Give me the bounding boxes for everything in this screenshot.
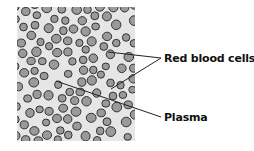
red-blood-cell <box>15 83 23 91</box>
red-blood-cell <box>90 66 97 74</box>
red-blood-cell <box>69 25 78 33</box>
red-blood-cell <box>30 127 39 136</box>
red-blood-cell <box>76 39 83 46</box>
red-blood-cell <box>65 131 73 139</box>
red-blood-cell <box>81 27 90 36</box>
red-blood-cell <box>81 131 90 141</box>
red-blood-cell <box>60 27 68 35</box>
red-blood-cell <box>129 86 136 93</box>
red-blood-cell <box>69 58 76 65</box>
red-blood-cell <box>63 37 71 45</box>
red-blood-cell <box>57 127 65 134</box>
red-blood-cell <box>19 49 27 58</box>
red-blood-cell <box>86 113 96 122</box>
red-blood-cell <box>95 2 104 11</box>
red-blood-cell <box>64 70 72 77</box>
red-blood-cell <box>29 78 39 87</box>
red-blood-cell <box>13 103 21 111</box>
red-blood-cell <box>97 109 105 117</box>
red-blood-cell <box>113 39 121 46</box>
red-blood-cell <box>24 95 32 102</box>
red-blood-cell <box>49 60 59 69</box>
red-blood-cell <box>44 24 53 33</box>
red-blood-cell <box>20 69 29 77</box>
label-plasma: Plasma <box>164 111 208 124</box>
red-blood-cell <box>20 23 28 31</box>
red-blood-cell <box>130 40 138 47</box>
red-blood-cell <box>129 75 138 83</box>
red-blood-cell <box>87 37 96 46</box>
blood-diagram <box>0 0 254 151</box>
red-blood-cell <box>27 31 36 39</box>
red-blood-cell <box>34 137 42 145</box>
red-blood-cell <box>53 48 62 56</box>
red-blood-cell <box>58 5 66 13</box>
red-blood-cell <box>87 76 96 85</box>
red-blood-cell <box>62 17 69 25</box>
red-blood-cell <box>122 34 129 42</box>
red-blood-cell <box>38 58 46 65</box>
red-blood-cell <box>63 115 71 124</box>
red-blood-cell <box>82 97 91 106</box>
red-blood-cell <box>92 23 100 30</box>
red-blood-cell <box>33 90 41 98</box>
red-blood-cell <box>51 15 58 22</box>
red-blood-cell <box>27 57 35 64</box>
red-blood-cell <box>31 2 39 9</box>
red-blood-cell <box>45 107 53 115</box>
red-blood-cell <box>106 127 116 137</box>
red-blood-cell <box>36 106 43 113</box>
red-blood-cell <box>78 17 86 25</box>
red-blood-cell <box>120 3 129 12</box>
red-blood-cell <box>20 121 28 129</box>
red-blood-cell <box>103 118 111 126</box>
red-blood-cell <box>78 78 86 86</box>
red-blood-cell <box>106 50 114 59</box>
red-blood-cell <box>112 102 122 112</box>
red-blood-cell <box>82 46 89 53</box>
red-blood-cell <box>109 3 118 12</box>
red-blood-cell <box>102 100 110 107</box>
red-blood-cell <box>97 71 104 78</box>
red-blood-cell <box>130 110 138 119</box>
red-blood-cell <box>58 95 66 103</box>
red-blood-cell <box>131 1 139 9</box>
red-blood-cell <box>37 38 44 45</box>
red-blood-cell <box>129 16 138 26</box>
red-blood-cell <box>130 64 138 72</box>
red-blood-cell <box>46 43 53 50</box>
red-blood-cell <box>12 116 20 123</box>
red-blood-cell <box>89 54 98 63</box>
red-blood-cell <box>84 6 92 14</box>
red-blood-cell <box>102 12 111 21</box>
red-blood-cell <box>31 21 39 29</box>
red-blood-cell <box>100 43 108 51</box>
red-blood-cell <box>107 79 115 87</box>
red-blood-cell <box>52 34 62 43</box>
label-red-blood-cells: Red blood cells <box>164 52 254 65</box>
red-blood-cell <box>53 114 62 122</box>
red-blood-cell <box>71 97 79 105</box>
red-blood-cell <box>44 91 53 100</box>
red-blood-cell <box>11 16 19 23</box>
red-blood-cell <box>17 39 25 47</box>
red-blood-cell <box>121 117 131 127</box>
red-blood-cell <box>79 66 87 74</box>
red-blood-cell <box>72 5 82 14</box>
red-blood-cell <box>31 67 38 74</box>
red-blood-cell <box>102 63 109 70</box>
red-blood-cell <box>42 4 52 13</box>
red-blood-cell <box>22 8 30 16</box>
red-blood-cell <box>11 63 19 70</box>
red-blood-cell <box>64 48 72 56</box>
red-blood-cell <box>96 127 104 135</box>
red-blood-cell <box>79 56 87 64</box>
red-blood-cell <box>93 137 100 145</box>
red-blood-cell <box>71 107 81 116</box>
red-blood-cell <box>73 122 81 130</box>
red-blood-cell <box>66 88 74 95</box>
red-blood-cell <box>32 47 41 57</box>
red-blood-cell <box>26 109 34 118</box>
red-blood-cell <box>119 92 127 99</box>
red-blood-cell <box>112 20 121 30</box>
